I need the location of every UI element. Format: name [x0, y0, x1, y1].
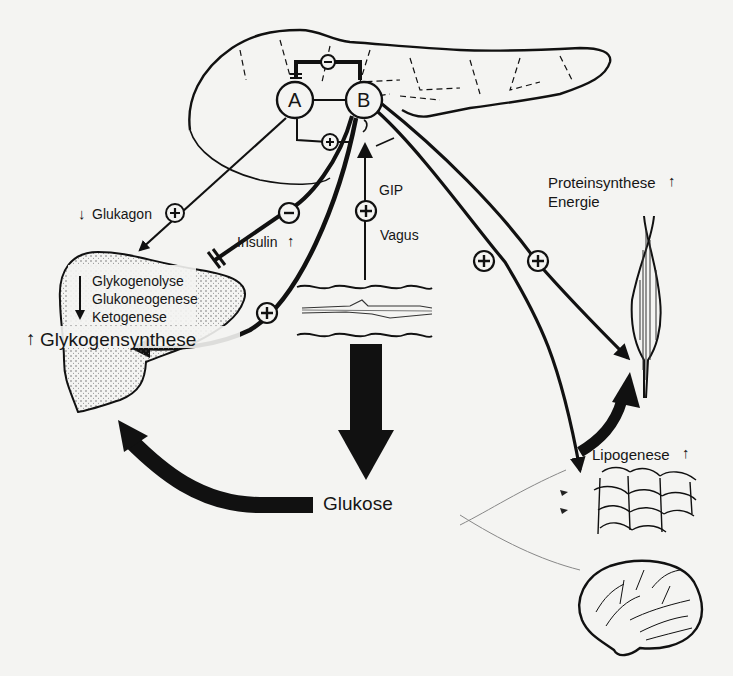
insulin-label: Insulin — [237, 235, 277, 249]
insulin-arrow: ↑ — [287, 233, 295, 248]
brain-icon — [579, 561, 702, 655]
process-glukoneogenese: Glukoneogenese — [92, 290, 198, 308]
muscle-icon — [632, 216, 661, 398]
liver-decreased-processes: Glykogenolyse Glukoneogenese Ketogenese — [92, 272, 198, 326]
glukagon-arrow: ↓ — [78, 206, 86, 221]
intestine-icon — [297, 286, 432, 337]
adipose-tissue-icon — [594, 468, 696, 535]
process-glykogenolyse: Glykogenolyse — [92, 272, 198, 290]
glykogensynthese-label: Glykogensynthese — [40, 330, 196, 349]
figure-canvas: A B ↓ Glukagon Insulin ↑ GIP Vagus Glyko… — [0, 0, 733, 676]
lipogenese-arrow: ↑ — [682, 445, 690, 460]
alpha-cell-label: A — [288, 90, 301, 110]
process-ketogenese: Ketogenese — [92, 308, 198, 326]
vagus-label: Vagus — [380, 228, 419, 242]
lipogenese-label: Lipogenese — [592, 447, 670, 462]
muscle-label-line1: Proteinsynthese — [548, 175, 656, 190]
beta-cell-label: B — [357, 90, 370, 110]
glukagon-label: Glukagon — [92, 207, 152, 221]
glukose-label: Glukose — [323, 494, 393, 513]
gip-label: GIP — [379, 183, 403, 197]
glykogensynthese-arrow: ↑ — [26, 329, 36, 348]
pancreas-icon — [189, 30, 610, 184]
muscle-label-arrow: ↑ — [668, 173, 676, 188]
muscle-label-line2: Energie — [548, 194, 600, 209]
